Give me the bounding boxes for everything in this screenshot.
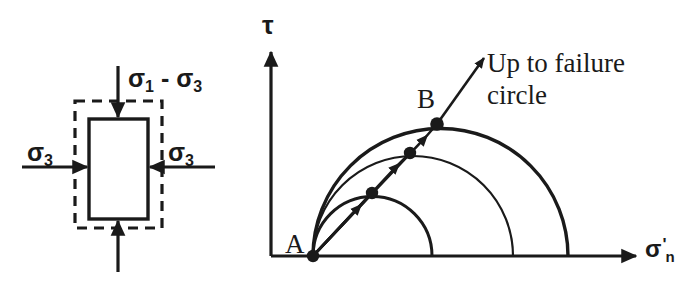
annotation-line-2: circle	[487, 80, 625, 112]
deviator-sigma-1-sub: 1	[145, 78, 154, 95]
triaxial-element-group	[22, 66, 215, 272]
tau-axis-label: τ	[262, 12, 274, 38]
confining-right-sub: 3	[185, 152, 194, 169]
deviator-sigma-3: σ	[176, 64, 193, 92]
confining-left-sigma: σ	[27, 138, 44, 166]
stress-point-2-dot	[404, 147, 416, 159]
point-b-dot	[430, 117, 444, 131]
up-to-failure-annotation: Up to failure circle	[487, 48, 625, 112]
point-a-dot	[307, 250, 319, 262]
outer-mohr-circle	[313, 129, 568, 256]
annotation-line-1: Up to failure	[487, 48, 625, 80]
up-to-failure-arrow	[437, 58, 484, 124]
confining-stress-label-left: σ3	[27, 140, 53, 165]
sigma-n-symbol: σ	[645, 235, 661, 262]
deviator-sigma-1: σ	[128, 64, 145, 92]
middle-mohr-circle	[313, 156, 513, 256]
mohr-circle-figure: σ1 - σ3 σ3 σ3 τ σ'n A B Up to failure ci…	[0, 0, 695, 292]
figure-vector-canvas	[0, 0, 695, 292]
point-a-label: A	[285, 231, 305, 258]
deviator-stress-label: σ1 - σ3	[128, 66, 202, 91]
point-b-label: B	[417, 86, 435, 113]
stress-point-1-dot	[366, 187, 378, 199]
confining-stress-label-right: σ3	[168, 140, 194, 165]
deviator-sigma-3-sub: 3	[193, 78, 202, 95]
deviator-minus-sign: -	[154, 64, 176, 92]
soil-element-solid-rect	[89, 119, 148, 219]
sigma-n-axis-label: σ'n	[645, 237, 675, 261]
sigma-n-subscript: n	[665, 248, 674, 265]
inner-mohr-circle	[313, 197, 432, 256]
confining-right-sigma: σ	[168, 138, 185, 166]
confining-left-sub: 3	[44, 152, 53, 169]
